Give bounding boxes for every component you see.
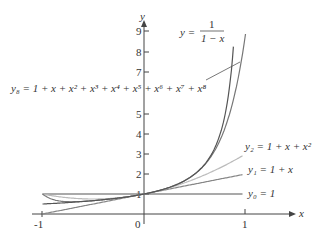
y8-label: y₈ = 1 + x + x² + x³ + x⁴ + x⁵ + x⁶ + x⁷… [10,82,206,94]
y-axis-label: y [139,10,145,22]
x-tick-label: 1 [242,218,248,230]
x-axis-label: x [298,207,304,219]
y1-label: y₁ = 1 + x [247,163,293,175]
inverse-label-numerator: 1 [209,18,215,30]
y-tick-label: 2 [136,168,142,180]
x-axis-arrow-icon [289,211,296,217]
inverse-label-denominator: 1 − x [201,32,224,44]
y0-label: y₀ = 1 [247,187,275,199]
chart: -1 0 1 x 1 2 3 4 5 7 8 9 y y = 1 1 − x y… [0,0,329,236]
x-tick-label: -1 [34,218,43,230]
inverse-label: y = [179,26,195,38]
y-tick-label: 4 [136,128,142,140]
y2-label: y₂ = 1 + x + x² [244,140,312,152]
y-tick-label: 8 [136,46,142,58]
y-tick-label: 5 [136,108,142,120]
y-tick-label: 9 [136,25,142,37]
y8-leader-line [206,62,240,80]
series-y2-line [43,156,243,199]
y-tick-label: 3 [136,148,142,160]
y-tick-label: 7 [136,66,142,78]
x-tick-label: 0 [135,218,141,230]
